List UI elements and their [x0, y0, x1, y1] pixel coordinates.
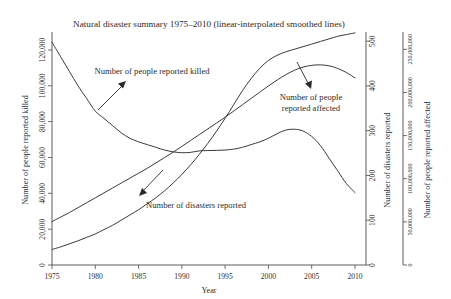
axis-right-outer-affected: 0 50,000,000 100,000,000 150,000,000 200… — [403, 32, 432, 267]
annot-disasters-label: Number of disasters reported — [146, 200, 247, 210]
right-tick-label-300: 300 — [368, 125, 377, 137]
x-tick-label-1995: 1995 — [218, 272, 233, 281]
annot-disasters-arrowhead — [139, 188, 147, 196]
chart-figure: 0 20,000 40,000 60,000 80,000 100,000 12… — [0, 0, 451, 299]
right-tick-label-100: 100 — [368, 214, 377, 226]
x-tick-label-1975: 1975 — [44, 272, 59, 281]
outer-tick-label-100m: 100,000,000 — [407, 163, 413, 193]
x-tick-label-1985: 1985 — [131, 272, 146, 281]
x-tick-label-1990: 1990 — [174, 272, 189, 281]
axis-right-disasters: 0 100 200 300 400 500 Number of disaster… — [366, 32, 392, 267]
x-tick-label-1980: 1980 — [88, 272, 103, 281]
outer-tick-label-50m: 50,000,000 — [407, 208, 413, 235]
x-tick-label-2005: 2005 — [304, 272, 319, 281]
natural-disaster-line-chart: 0 20,000 40,000 60,000 80,000 100,000 12… — [0, 0, 451, 299]
axis-bottom: 1975 1980 1985 1990 1995 2000 2005 2010 … — [44, 265, 366, 295]
annot-affected-label-line1: Number of people — [280, 92, 343, 102]
left-tick-label-60000: 60,000 — [38, 147, 47, 168]
outer-tick-label-200m: 200,000,000 — [407, 77, 413, 107]
outer-tick-label-250m: 250,000,000 — [407, 34, 413, 64]
x-tick-label-2000: 2000 — [261, 272, 276, 281]
left-axis-title: Number of people reported killed — [21, 95, 30, 205]
outer-axis-title: Number of people reported affected — [423, 101, 432, 218]
axis-left: 0 20,000 40,000 60,000 80,000 100,000 12… — [21, 32, 52, 267]
left-tick-label-120000: 120,000 — [38, 37, 47, 62]
right-tick-label-400: 400 — [368, 80, 377, 92]
annot-killed-label: Number of people reported killed — [94, 66, 210, 76]
chart-title: Natural disaster summary 1975–2010 (line… — [73, 19, 345, 29]
series-line-killed — [52, 42, 355, 192]
x-axis-title: Year — [201, 286, 216, 295]
x-tick-label-2010: 2010 — [347, 272, 362, 281]
annot-affected-label-line2: reported affected — [282, 103, 341, 113]
annot-killed-arrowhead — [118, 81, 126, 89]
left-tick-label-40000: 40,000 — [38, 183, 47, 204]
left-tick-label-0: 0 — [38, 263, 47, 267]
right-tick-label-0: 0 — [368, 263, 377, 267]
series-line-disasters — [52, 65, 355, 222]
right-tick-label-200: 200 — [368, 170, 377, 182]
right-tick-label-500: 500 — [368, 35, 377, 47]
annot-disasters: Number of disasters reported — [139, 170, 247, 210]
left-tick-label-80000: 80,000 — [38, 111, 47, 132]
right-axis-title: Number of disasters reported — [383, 112, 392, 207]
annot-affected: Number of people reported affected — [280, 62, 343, 113]
left-tick-label-100000: 100,000 — [38, 73, 47, 98]
annot-affected-arrowhead — [305, 81, 312, 90]
annot-killed: Number of people reported killed — [94, 66, 210, 110]
outer-tick-label-0: 0 — [407, 263, 413, 266]
left-tick-label-20000: 20,000 — [38, 219, 47, 240]
outer-tick-label-150m: 150,000,000 — [407, 120, 413, 150]
